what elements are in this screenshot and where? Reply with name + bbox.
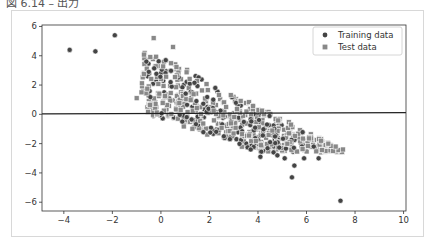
y-tick-label: 4 [32,51,37,61]
training-point [259,149,264,154]
training-point [233,100,238,105]
x-tick-label: −4 [58,215,71,225]
test-point [228,121,233,126]
training-point [316,156,321,161]
test-point [287,131,292,136]
training-point [93,49,98,54]
test-point [161,64,166,69]
y-tick-label: 2 [32,80,37,90]
test-point [232,115,237,120]
training-point [214,129,219,134]
training-point [282,156,287,161]
training-point [144,59,149,64]
test-point [314,149,319,154]
test-point [231,131,236,136]
test-point [306,136,311,141]
test-point [240,132,245,137]
test-point [224,104,229,109]
test-point [149,76,154,81]
test-point [205,88,210,93]
training-point [205,94,210,99]
training-point [300,130,305,135]
test-point [184,70,189,75]
training-point [291,145,296,150]
test-point [340,147,345,152]
test-point [260,108,265,113]
training-point [280,136,285,141]
test-point [187,76,192,81]
training-point [289,175,294,180]
x-tick-label: 10 [398,215,409,225]
training-point [168,80,173,85]
legend-label: Test data [337,42,377,52]
training-point [183,91,188,96]
test-point [319,138,324,143]
test-point [162,94,167,99]
test-point [276,118,281,123]
test-point [168,90,173,95]
test-point [219,125,224,130]
test-point [305,143,310,148]
test-point [199,88,204,93]
training-point [208,130,213,135]
test-point [164,74,169,79]
test-point [139,90,144,95]
training-point [163,58,168,63]
test-point [211,118,216,123]
test-point [173,75,178,80]
x-tick-label: 4 [255,215,260,225]
y-tick-label: −2 [24,139,37,149]
training-point [261,127,266,132]
test-point [320,148,325,153]
training-point [201,130,206,135]
training-point [184,115,189,120]
y-tick-label: −6 [24,197,37,207]
test-point [204,82,209,87]
training-point [253,125,258,130]
training-point [192,80,197,85]
training-point [221,134,226,139]
x-tick-label: 2 [207,215,212,225]
test-point [168,61,173,66]
x-tick-label: −2 [106,215,119,225]
x-tick-label: 8 [352,215,357,225]
training-point [180,119,185,124]
training-point [264,122,269,127]
test-point [233,125,238,130]
training-point [283,146,288,151]
test-point [211,108,216,113]
training-point [152,66,157,71]
test-point [300,136,305,141]
training-point [338,198,343,203]
training-point [301,156,306,161]
test-point [145,86,150,91]
training-point [268,140,273,145]
training-point [258,154,263,159]
test-point [181,124,186,129]
training-point [227,137,232,142]
test-point [191,92,196,97]
test-point [246,133,251,138]
test-point [134,96,139,101]
test-point [160,100,165,105]
reference-line [42,113,406,114]
test-point [300,146,305,151]
test-point [285,141,290,146]
legend-training-marker [323,33,328,38]
training-point [273,140,278,145]
training-point [292,163,297,168]
test-point [250,104,255,109]
test-point [154,54,159,59]
test-point [333,144,338,149]
x-tick-label: 0 [158,215,163,225]
training-point [194,98,199,103]
test-point [141,52,146,57]
training-point [272,134,277,139]
test-point [171,44,176,49]
training-point [180,85,185,90]
test-point [148,55,153,60]
training-point [256,117,261,122]
scatter-chart: −4−20246810−6−4−20246 Training dataTest … [0,0,432,249]
test-point [151,36,156,41]
test-point [270,128,275,133]
